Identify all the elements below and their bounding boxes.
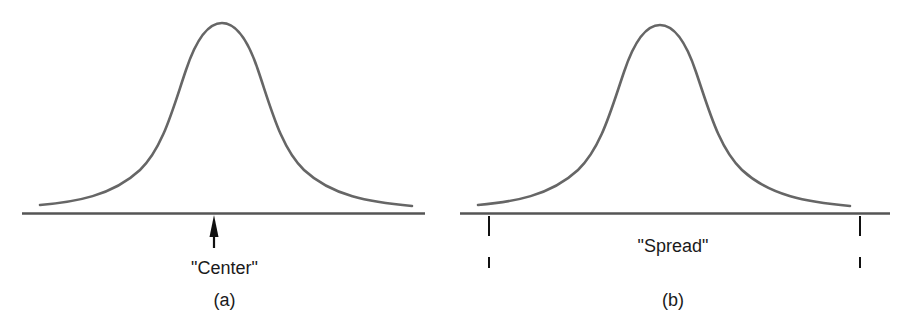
bell-curve-a	[40, 23, 412, 206]
bell-curve-b	[478, 25, 850, 206]
spread-annotation-label: "Spread"	[449, 236, 897, 257]
panel-a: "Center" (a)	[0, 0, 449, 326]
panel-a-caption: (a)	[0, 290, 449, 311]
center-arrow-icon	[210, 215, 219, 248]
spread-annotation-text: "Spread"	[631, 236, 716, 256]
center-annotation-label: "Center"	[0, 258, 449, 279]
panel-b-caption: (b)	[449, 290, 897, 311]
panel-b-graphic	[449, 0, 897, 326]
figure-container: "Center" (a) "Spread" (b)	[0, 0, 897, 326]
panel-b: "Spread" (b)	[449, 0, 897, 326]
